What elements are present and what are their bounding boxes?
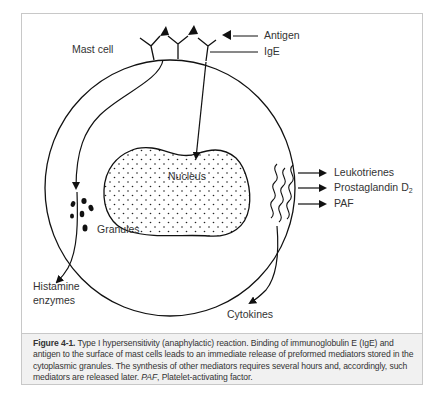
label-antigen: Antigen [264, 29, 300, 41]
granules [70, 198, 94, 232]
label-ige: IgE [264, 45, 280, 57]
label-leukotrienes: Leukotrienes [334, 166, 394, 178]
synthesis-waves [271, 164, 294, 222]
caption-figure-label: Figure 4-1. [33, 338, 75, 348]
figure-caption: Figure 4-1. Type I hypersensitivity (ana… [21, 333, 423, 385]
label-prostaglandin: Prostaglandin D2 [334, 181, 413, 194]
label-paf: PAF [334, 197, 354, 209]
caption-abbr: PAF [141, 372, 157, 382]
caption-text-end: , Platelet-activating factor. [157, 372, 253, 382]
label-histamine: Histamine [33, 280, 80, 292]
ige-receptors [140, 36, 216, 61]
label-cytokines: Cytokines [227, 308, 273, 320]
label-granules: Granules [97, 223, 140, 235]
label-enzymes: enzymes [33, 294, 75, 306]
label-nucleus: Nucleus [168, 170, 206, 182]
label-mast-cell: Mast cell [72, 43, 113, 55]
